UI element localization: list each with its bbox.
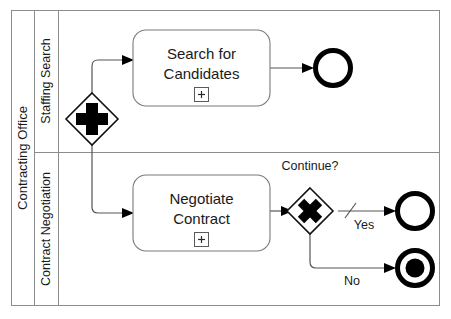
flow-split-to-search-line bbox=[92, 60, 122, 93]
lane-label-staffing-search: Staffing Search bbox=[39, 38, 53, 123]
end-event-yes[interactable] bbox=[398, 194, 433, 229]
exclusive-x-icon bbox=[301, 202, 319, 220]
parallel-plus-icon-h bbox=[76, 113, 108, 125]
flow-search-to-end-arrowhead bbox=[302, 63, 314, 73]
flow-gateway-yes-arrowhead bbox=[384, 206, 396, 216]
end-event-staffing-search-circle[interactable] bbox=[316, 51, 351, 86]
terminate-end-event-no[interactable] bbox=[398, 251, 433, 286]
task-search-for-candidates-label-line1: Search for bbox=[167, 45, 236, 62]
flow-split-to-negotiate bbox=[92, 145, 134, 218]
task-negotiate-contract-label-line1: Negotiate bbox=[169, 190, 233, 207]
subprocess-plus-icon bbox=[195, 233, 209, 247]
gateway-parallel-split[interactable] bbox=[66, 93, 118, 145]
flow-gateway-yes-label: Yes bbox=[354, 218, 374, 232]
task-search-for-candidates[interactable]: Search for Candidates bbox=[133, 30, 270, 106]
task-negotiate-contract[interactable]: Negotiate Contract bbox=[133, 175, 270, 251]
end-event-staffing-search[interactable] bbox=[316, 51, 351, 86]
flow-split-to-search-arrowhead bbox=[122, 55, 134, 65]
flow-gateway-no-arrowhead bbox=[384, 263, 396, 273]
gateway-exclusive-continue-label: Continue? bbox=[282, 159, 339, 173]
flow-gateway-yes: Yes bbox=[338, 203, 396, 232]
lane-label-staffing-search-text: Staffing Search bbox=[39, 38, 53, 123]
task-negotiate-contract-label-line2: Contract bbox=[173, 210, 231, 227]
flow-gateway-no-label: No bbox=[344, 274, 360, 288]
flow-split-to-search bbox=[92, 55, 134, 93]
subprocess-plus-icon bbox=[195, 88, 209, 102]
gateway-exclusive-continue[interactable]: Continue? bbox=[282, 159, 339, 234]
terminate-end-event-no-dot bbox=[406, 259, 425, 278]
lane-label-contract-negotiation: Contract Negotiation bbox=[39, 172, 53, 286]
task-search-for-candidates-label-line2: Candidates bbox=[164, 65, 240, 82]
flow-split-to-negotiate-line bbox=[92, 145, 122, 213]
flow-search-to-end bbox=[270, 63, 314, 73]
bpmn-diagram-canvas: Contracting Office Staffing Search Contr… bbox=[0, 0, 451, 319]
flow-gateway-no: No bbox=[310, 234, 396, 288]
end-event-yes-circle[interactable] bbox=[398, 194, 433, 229]
bpmn-diagram: Contracting Office Staffing Search Contr… bbox=[0, 0, 451, 319]
lane-label-contract-negotiation-text: Contract Negotiation bbox=[39, 172, 53, 286]
flow-gateway-no-line bbox=[310, 234, 385, 268]
pool-label-text: Contracting Office bbox=[15, 106, 30, 210]
flow-split-to-negotiate-arrowhead bbox=[122, 208, 134, 218]
pool-label: Contracting Office bbox=[15, 106, 30, 210]
